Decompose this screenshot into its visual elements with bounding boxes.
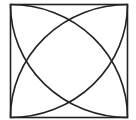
diagram-canvas (0, 0, 136, 120)
arc-centered-bottom-left (11, 5, 128, 118)
square-outline (11, 5, 128, 118)
arc-centered-bottom-right (11, 5, 128, 118)
arc-centered-top-right (11, 5, 128, 118)
arc-centered-top-left (11, 5, 128, 118)
